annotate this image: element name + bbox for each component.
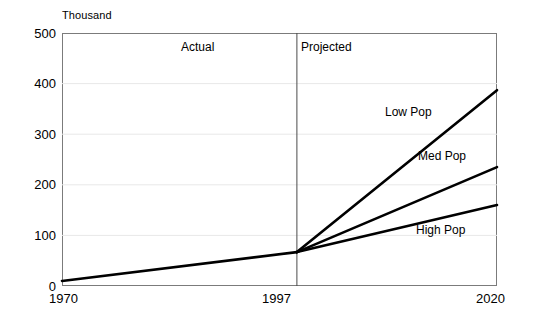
y-tick-label-300: 300 (4, 128, 56, 141)
y-axis-tick-labels: 500 400 300 200 100 0 (0, 0, 56, 327)
population-projection-chart: Thousand 500 400 300 200 100 0 1970 1997… (0, 0, 535, 327)
period-caption-projected: Projected (301, 41, 352, 54)
period-caption-actual: Actual (181, 41, 214, 54)
x-tick-label-1997: 1997 (262, 292, 291, 306)
series-label-low-pop: Low Pop (385, 106, 432, 119)
x-tick-label-2020: 2020 (476, 292, 505, 306)
y-axis-unit-label: Thousand (62, 9, 112, 21)
y-tick-label-400: 400 (4, 77, 56, 90)
series-line-actual (62, 252, 297, 281)
series-line-med-pop (297, 167, 497, 252)
series-label-med-pop: Med Pop (418, 150, 466, 163)
y-tick-label-500: 500 (4, 27, 56, 40)
x-tick-label-1970: 1970 (49, 292, 78, 306)
y-tick-label-200: 200 (4, 178, 56, 191)
series-label-high-pop: High Pop (416, 224, 465, 237)
y-tick-label-100: 100 (4, 229, 56, 242)
